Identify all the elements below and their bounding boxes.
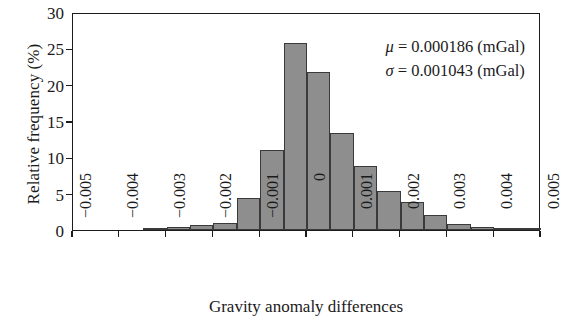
x-axis-tick-mark bbox=[71, 231, 72, 237]
x-axis-tick-mark bbox=[165, 231, 166, 237]
x-axis-tick-label: −0.005 bbox=[78, 173, 94, 243]
sigma-equals: = bbox=[398, 61, 407, 80]
x-axis-tick-mark bbox=[446, 231, 447, 237]
mean-value: 0.000186 bbox=[411, 37, 473, 56]
y-axis-tick-label: 30 bbox=[30, 5, 64, 22]
y-axis-tick-label: 5 bbox=[30, 186, 64, 203]
x-axis-tick-label: 0.005 bbox=[546, 173, 562, 243]
histogram-bar bbox=[143, 228, 166, 230]
y-axis-tick-mark bbox=[66, 49, 72, 50]
mean-equals: = bbox=[398, 37, 407, 56]
x-axis-tick-mark bbox=[539, 231, 540, 237]
x-axis-tick-label: −0.002 bbox=[218, 173, 234, 243]
x-axis-tick-mark bbox=[259, 231, 260, 237]
histogram-bar bbox=[190, 225, 213, 230]
y-axis-tick-label: 10 bbox=[30, 150, 64, 167]
mean-annotation: μ = 0.000186 (mGal) bbox=[385, 35, 525, 59]
x-axis-tick-label: 0 bbox=[312, 173, 328, 243]
x-axis-tick-label: 0.003 bbox=[452, 173, 468, 243]
mean-units: (mGal) bbox=[477, 37, 525, 56]
histogram-bar bbox=[377, 191, 400, 230]
y-axis-tick-mark bbox=[66, 121, 72, 122]
histogram-figure: Relative frequency (%) 051015202530 μ = … bbox=[0, 0, 577, 323]
x-axis-tick-label: −0.001 bbox=[265, 173, 281, 243]
x-axis-tick-label: 0.002 bbox=[406, 173, 422, 243]
sigma-units: (mGal) bbox=[477, 61, 525, 80]
x-axis-tick-mark bbox=[118, 231, 119, 237]
plot-area: μ = 0.000186 (mGal) σ = 0.001043 (mGal) bbox=[72, 13, 540, 231]
x-axis-tick-mark bbox=[212, 231, 213, 237]
y-axis-tick-label: 0 bbox=[30, 223, 64, 240]
statistics-annotation: μ = 0.000186 (mGal) σ = 0.001043 (mGal) bbox=[385, 35, 525, 83]
x-axis-tick-mark bbox=[305, 231, 306, 237]
mu-symbol: μ bbox=[385, 37, 393, 56]
y-axis-tick-label: 25 bbox=[30, 41, 64, 58]
sigma-annotation: σ = 0.001043 (mGal) bbox=[385, 59, 525, 83]
y-axis-tick-label: 15 bbox=[30, 114, 64, 131]
histogram-bar bbox=[237, 198, 260, 230]
x-axis-tick-label: 0.001 bbox=[359, 173, 375, 243]
sigma-value: 0.001043 bbox=[411, 61, 473, 80]
x-axis-tick-label: 0.004 bbox=[499, 173, 515, 243]
y-axis-tick-mark bbox=[66, 158, 72, 159]
x-axis-tick-mark bbox=[352, 231, 353, 237]
x-axis-tick-label: −0.004 bbox=[125, 173, 141, 243]
histogram-bar bbox=[518, 228, 541, 230]
y-axis-tick-mark bbox=[66, 194, 72, 195]
x-axis-tick-mark bbox=[399, 231, 400, 237]
x-axis-tick-mark bbox=[493, 231, 494, 237]
histogram-bar bbox=[330, 133, 353, 230]
y-axis-tick-label: 20 bbox=[30, 77, 64, 94]
histogram-bar bbox=[424, 215, 447, 230]
histogram-bar bbox=[284, 43, 307, 230]
y-axis-tick-labels: 051015202530 bbox=[28, 0, 64, 323]
sigma-symbol: σ bbox=[385, 61, 393, 80]
x-axis-tick-label: −0.003 bbox=[172, 173, 188, 243]
histogram-bar bbox=[471, 227, 494, 230]
y-axis-tick-mark bbox=[66, 85, 72, 86]
x-axis-title: Gravity anomaly differences bbox=[72, 297, 540, 317]
